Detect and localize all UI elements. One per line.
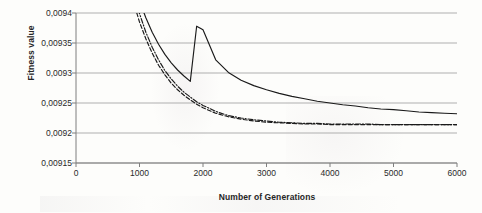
x-axis-tick-label: 5000 <box>384 168 403 178</box>
x-axis-title: Number of Generations <box>76 192 458 202</box>
series-line-1 <box>133 0 457 114</box>
x-axis-tick-label: 6000 <box>448 168 467 178</box>
y-axis-tick-labels: 0,009150,00920,009250,00930,009350,0094 <box>8 0 72 213</box>
plot-area <box>0 0 482 213</box>
x-axis-tick-label: 4000 <box>321 168 340 178</box>
y-axis-tick-label: 0,00925 <box>10 98 72 108</box>
x-axis-tick-label: 3000 <box>257 168 276 178</box>
y-axis-title: Fitness value <box>26 0 36 108</box>
y-axis-tick-label: 0,00915 <box>10 158 72 168</box>
series-line-2 <box>133 1 457 125</box>
x-axis-tick-label: 2000 <box>194 168 213 178</box>
fitness-convergence-chart: 0,009150,00920,009250,00930,009350,0094 … <box>0 0 482 213</box>
x-axis-tick-label: 0 <box>74 168 79 178</box>
x-axis-tick-label: 1000 <box>130 168 149 178</box>
y-axis-tick-label: 0,0093 <box>10 68 72 78</box>
y-axis-tick-label: 0,00935 <box>10 38 72 48</box>
series-line-3 <box>133 0 457 125</box>
y-axis-tick-label: 0,0094 <box>10 8 72 18</box>
y-axis-tick-label: 0,0092 <box>10 128 72 138</box>
